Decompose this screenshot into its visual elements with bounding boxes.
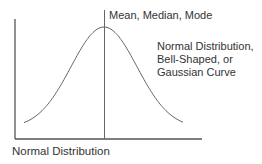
curve-label-line-1: Normal Distribution, <box>157 40 254 53</box>
normal-distribution-diagram <box>0 0 262 164</box>
curve-label-line-2: Bell-Shaped, or <box>157 53 254 66</box>
diagram-title: Normal Distribution <box>12 145 110 158</box>
curve-description-label: Normal Distribution, Bell-Shaped, or Gau… <box>157 40 254 79</box>
curve-label-line-3: Gaussian Curve <box>157 66 254 79</box>
mean-median-mode-label: Mean, Median, Mode <box>109 9 212 22</box>
